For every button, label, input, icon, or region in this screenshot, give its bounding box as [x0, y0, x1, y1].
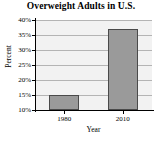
bar [108, 29, 138, 110]
bar [49, 95, 79, 110]
y-axis-tick [32, 95, 36, 96]
y-axis-tick [32, 80, 36, 81]
x-axis-tick-label: 2010 [103, 115, 143, 123]
x-axis-title: Year [35, 125, 152, 134]
x-axis-line [33, 110, 154, 111]
gridline [35, 20, 152, 21]
y-axis-tick-label: 10% [5, 107, 31, 114]
y-axis-tick [32, 20, 36, 21]
y-axis-tick-label: 25% [5, 62, 31, 69]
y-axis-tick [32, 50, 36, 51]
y-axis-tick [32, 65, 36, 66]
x-axis-tick-label: 1980 [44, 115, 84, 123]
y-axis-tick-label: 40% [5, 17, 31, 24]
y-axis-title: Percent [4, 34, 13, 80]
y-axis-tick [32, 110, 36, 111]
y-axis-tick-label: 20% [5, 77, 31, 84]
y-axis-tick [32, 35, 36, 36]
x-axis-tick [123, 110, 124, 114]
chart-title: Overweight Adults in U.S. [0, 0, 162, 12]
y-axis-tick-label: 15% [5, 92, 31, 99]
y-axis-tick-label: 30% [5, 47, 31, 54]
y-axis-tick-label: 35% [5, 32, 31, 39]
x-axis-tick [64, 110, 65, 114]
chart-screenshot: Overweight Adults in U.S. Percent 10%15%… [0, 0, 162, 141]
